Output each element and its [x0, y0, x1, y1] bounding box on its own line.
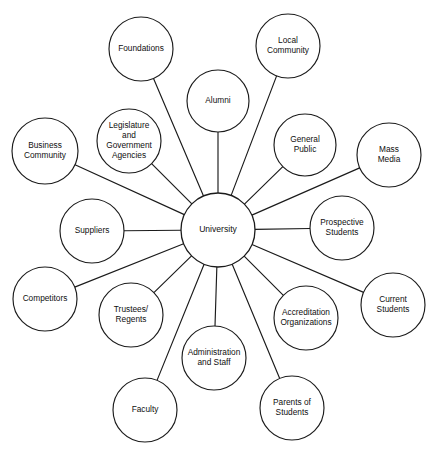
spoke-administration-and-staff	[215, 267, 217, 326]
node-suppliers[interactable]: Suppliers	[60, 199, 124, 263]
node-label-accreditation-organizations: AccreditationOrganizations	[280, 307, 331, 327]
node-label-legislature: LegislatureandGovernmentAgencies	[106, 120, 152, 161]
node-administration-and-staff[interactable]: Administrationand Staff	[182, 326, 246, 390]
node-label-prospective-students: ProspectiveStudents	[320, 217, 364, 237]
node-label-suppliers: Suppliers	[75, 225, 110, 235]
node-label-alumni: Alumni	[205, 95, 231, 105]
node-parents-of-students[interactable]: Parents ofStudents	[260, 376, 324, 440]
spoke-accreditation-organizations	[244, 256, 283, 295]
spoke-prospective-students	[255, 229, 310, 230]
node-alumni[interactable]: Alumni	[187, 70, 249, 132]
node-competitors[interactable]: Competitors	[13, 267, 77, 331]
node-foundations[interactable]: Foundations	[109, 17, 173, 81]
node-label-competitors: Competitors	[23, 293, 68, 303]
node-prospective-students[interactable]: ProspectiveStudents	[310, 196, 374, 260]
node-label-business-community: BusinessCommunity	[24, 140, 67, 160]
node-label-parents-of-students: Parents ofStudents	[273, 397, 312, 417]
node-label-university: University	[199, 224, 237, 234]
node-label-foundations: Foundations	[118, 43, 164, 53]
node-current-students[interactable]: CurrentStudents	[361, 273, 425, 337]
node-label-faculty: Faculty	[132, 404, 160, 414]
node-label-current-students: CurrentStudents	[377, 294, 410, 314]
node-trustees-regents[interactable]: Trustees/Regents	[99, 283, 163, 347]
stakeholder-diagram-canvas: FoundationsLocalCommunityAlumniLegislatu…	[0, 0, 437, 457]
node-legislature[interactable]: LegislatureandGovernmentAgencies	[97, 109, 161, 173]
spoke-legislature	[152, 164, 192, 204]
node-business-community[interactable]: BusinessCommunity	[12, 118, 78, 184]
node-label-general-public: GeneralPublic	[290, 134, 320, 154]
node-local-community[interactable]: LocalCommunity	[256, 14, 320, 78]
stakeholder-diagram: FoundationsLocalCommunityAlumniLegislatu…	[0, 0, 437, 457]
node-mass-media[interactable]: MassMedia	[357, 123, 421, 187]
node-label-mass-media: MassMedia	[378, 144, 401, 164]
node-label-trustees-regents: Trustees/Regents	[114, 304, 149, 324]
spoke-general-public	[244, 167, 282, 204]
node-university[interactable]: University	[181, 193, 255, 267]
node-faculty[interactable]: Faculty	[113, 378, 177, 442]
nodes-layer: FoundationsLocalCommunityAlumniLegislatu…	[12, 14, 425, 442]
node-general-public[interactable]: GeneralPublic	[274, 114, 336, 176]
spoke-trustees-regents	[154, 256, 192, 293]
node-accreditation-organizations[interactable]: AccreditationOrganizations	[274, 286, 338, 350]
